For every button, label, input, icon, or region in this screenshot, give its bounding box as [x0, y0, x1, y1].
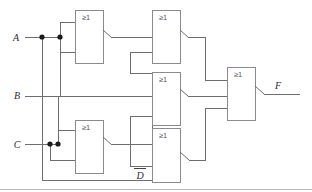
junction-dot-c-1 — [47, 141, 52, 146]
gate-g6-label: ≥1 — [234, 70, 242, 79]
gate-g5-negation-wedge-icon — [180, 152, 189, 160]
gate-g3-label: ≥1 — [159, 75, 167, 84]
gate-g2-label: ≥1 — [159, 13, 167, 22]
circuit-canvas: ≥1 ≥1 ≥1 ≥1 ≥1 ≥1 A B C D F — [0, 0, 312, 192]
wire-g5-input-top-riser — [130, 116, 152, 166]
wire-g5-out-to-g6-input-bottom — [189, 108, 227, 160]
input-label-d: D — [135, 170, 144, 181]
input-label-b: B — [14, 90, 20, 101]
gate-g1-label: ≥1 — [82, 13, 90, 22]
input-label-a: A — [12, 32, 20, 43]
junction-dot-a-1 — [39, 34, 44, 39]
gate-g5-label: ≥1 — [159, 131, 167, 140]
junction-dot-c-2 — [55, 141, 60, 146]
wire-g4-out-to-g3-input-bottom — [112, 110, 152, 144]
logic-circuit-figure: ≥1 ≥1 ≥1 ≥1 ≥1 ≥1 A B C D F — [0, 0, 312, 192]
wire-c-to-g4-input-bottom — [50, 144, 75, 160]
wire-g2-input-bottom-from-left-bus — [130, 52, 152, 73]
gate-g4-negation-wedge-icon — [103, 137, 112, 145]
gate-g4-label: ≥1 — [82, 123, 90, 132]
gate-g1-negation-wedge-icon — [103, 30, 112, 38]
wire-g2-out-to-g6-input-top — [189, 37, 227, 80]
gate-g3-negation-wedge-icon — [180, 89, 189, 97]
junction-dot-a-2 — [57, 34, 62, 39]
wire-c-to-g4-input-top — [58, 130, 75, 144]
gate-g6-negation-wedge-icon — [255, 86, 264, 94]
output-label-f: F — [274, 80, 282, 91]
gate-g2-negation-wedge-icon — [180, 30, 189, 38]
wire-a-to-g1-input-top — [60, 22, 75, 37]
wire-a-to-g1-input-bottom — [60, 37, 75, 52]
input-label-c: C — [14, 139, 21, 150]
